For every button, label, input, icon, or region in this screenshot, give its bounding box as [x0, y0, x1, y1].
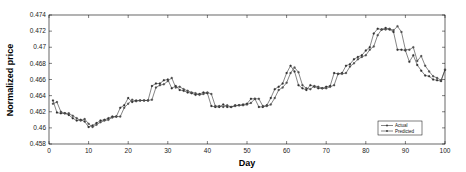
x-tick-label: 20	[125, 147, 133, 154]
x-tick-label: 30	[164, 147, 172, 154]
line-chart: 0.4580.460.4620.4640.4660.4680.470.4720.…	[0, 0, 466, 172]
y-tick-label: 0.472	[30, 27, 47, 34]
x-tick-label: 10	[85, 147, 93, 154]
x-tick-label: 40	[204, 147, 212, 154]
y-tick-label: 0.466	[30, 76, 47, 83]
x-tick-label: 100	[440, 147, 451, 154]
y-tick-label: 0.468	[30, 60, 47, 67]
legend-marker-predicted-icon	[386, 130, 388, 132]
y-tick-label: 0.46	[33, 124, 46, 131]
y-tick-label: 0.474	[30, 11, 47, 18]
x-tick-label: 0	[47, 147, 51, 154]
x-tick-label: 50	[243, 147, 251, 154]
y-tick-label: 0.47	[33, 43, 46, 50]
y-tick-label: 0.458	[30, 140, 47, 147]
x-axis-title: Day	[239, 158, 256, 168]
y-tick-label: 0.464	[30, 92, 47, 99]
x-tick-label: 60	[283, 147, 291, 154]
x-tick-label: 90	[402, 147, 410, 154]
legend: Actual Predicted	[378, 121, 422, 135]
y-axis-title: Normalized price	[5, 44, 15, 117]
y-tick-label: 0.462	[30, 108, 47, 115]
legend-marker-actual-icon	[386, 125, 388, 127]
legend-label-predicted: Predicted	[395, 129, 415, 134]
x-tick-label: 80	[362, 147, 370, 154]
legend-label-actual: Actual	[395, 123, 408, 128]
x-tick-label: 70	[323, 147, 331, 154]
